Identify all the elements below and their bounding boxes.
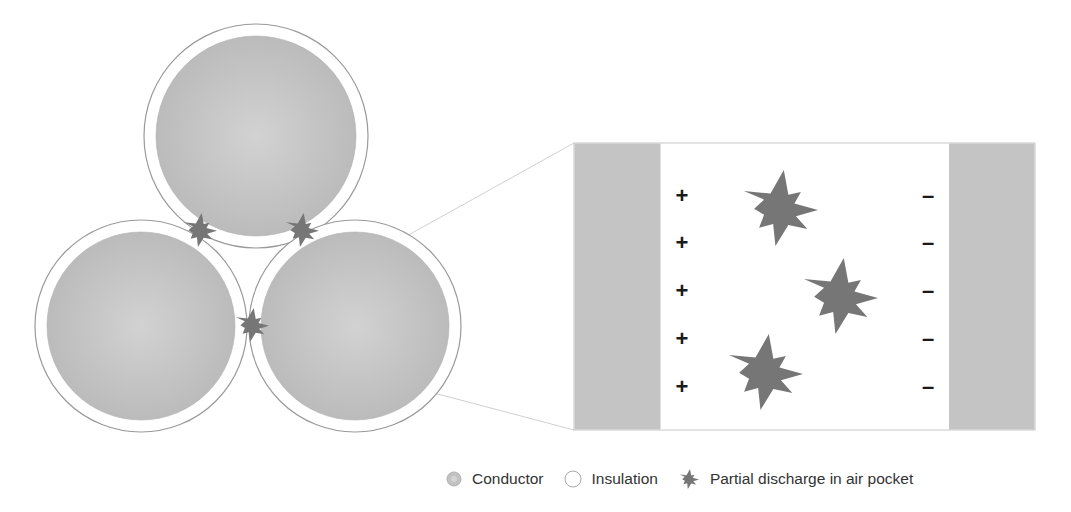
discharge-star-icon <box>678 468 700 490</box>
insulation-swatch-icon <box>564 470 582 488</box>
cable-cross-section <box>35 24 461 432</box>
legend-label-discharge: Partial discharge in air pocket <box>710 470 913 488</box>
minus-sign: – <box>922 230 934 255</box>
zoom-detail-panel: +++++ ––––– <box>574 143 1035 430</box>
plus-sign: + <box>676 374 689 399</box>
conductor-core <box>156 36 356 236</box>
conductor-swatch-icon <box>446 471 462 487</box>
bottom-right-core <box>249 220 461 432</box>
legend: Conductor Insulation Partial discharge i… <box>446 466 933 492</box>
legend-item-conductor: Conductor <box>446 470 544 488</box>
legend-item-discharge: Partial discharge in air pocket <box>678 468 913 490</box>
conductor-core <box>47 232 235 420</box>
conductor-core <box>261 232 449 420</box>
legend-label-conductor: Conductor <box>472 470 544 488</box>
cable-partial-discharge-diagram: +++++ ––––– <box>0 0 1071 512</box>
legend-item-insulation: Insulation <box>564 470 658 488</box>
minus-sign: – <box>922 183 934 208</box>
left-conductor-band <box>575 144 661 430</box>
plus-sign: + <box>676 326 689 351</box>
legend-label-insulation: Insulation <box>592 470 658 488</box>
minus-sign: – <box>922 326 934 351</box>
bottom-left-core <box>35 220 247 432</box>
minus-sign: – <box>922 278 934 303</box>
right-conductor-band <box>949 144 1035 430</box>
plus-sign: + <box>676 230 689 255</box>
minus-sign: – <box>922 374 934 399</box>
plus-sign: + <box>676 278 689 303</box>
top-core <box>144 24 368 248</box>
plus-sign: + <box>676 183 689 208</box>
